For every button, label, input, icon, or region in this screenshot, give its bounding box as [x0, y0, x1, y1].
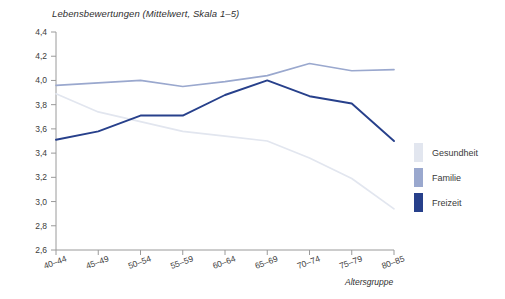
legend-item-gesundheit[interactable]: Gesundheit	[414, 140, 504, 165]
x-tick-label: 70–74	[296, 253, 322, 271]
y-tick-label: 2,6	[35, 245, 47, 255]
y-tick-label: 4,0	[35, 75, 47, 85]
legend-swatch-familie	[414, 168, 423, 187]
y-tick-label: 3,8	[35, 100, 47, 110]
y-tick-label: 2,8	[35, 221, 47, 231]
x-tick-label: 55–59	[169, 253, 195, 271]
legend-item-freizeit[interactable]: Freizeit	[414, 190, 504, 215]
x-axis-title: Altersgruppe	[345, 277, 393, 287]
chart-legend: Gesundheit Familie Freizeit	[414, 140, 504, 215]
legend-swatch-freizeit	[414, 193, 423, 212]
legend-swatch-gesundheit	[414, 143, 423, 162]
series-line-familie	[56, 63, 394, 86]
x-tick-label: 60–64	[211, 253, 237, 271]
x-tick-label: 75–79	[338, 253, 364, 271]
legend-item-familie[interactable]: Familie	[414, 165, 504, 190]
legend-label-freizeit: Freizeit	[432, 198, 462, 208]
y-tick-label: 3,4	[35, 148, 47, 158]
y-tick-label: 3,0	[35, 197, 47, 207]
y-tick-label: 4,4	[35, 27, 47, 37]
x-tick-label: 45–49	[84, 253, 110, 271]
y-tick-label: 4,2	[35, 51, 47, 61]
series-line-freizeit	[56, 80, 394, 141]
x-tick-label: 80–85	[380, 253, 406, 271]
legend-label-familie: Familie	[432, 173, 461, 183]
chart-figure: Lebensbewertungen (Mittelwert, Skala 1–5…	[0, 0, 505, 299]
x-tick-label: 40–44	[42, 253, 68, 271]
y-tick-label: 3,2	[35, 172, 47, 182]
x-tick-label: 65–69	[253, 253, 279, 271]
x-tick-label: 50–54	[127, 253, 153, 271]
legend-label-gesundheit: Gesundheit	[432, 148, 478, 158]
y-tick-label: 3,6	[35, 124, 47, 134]
series-line-gesundheit	[56, 94, 394, 209]
